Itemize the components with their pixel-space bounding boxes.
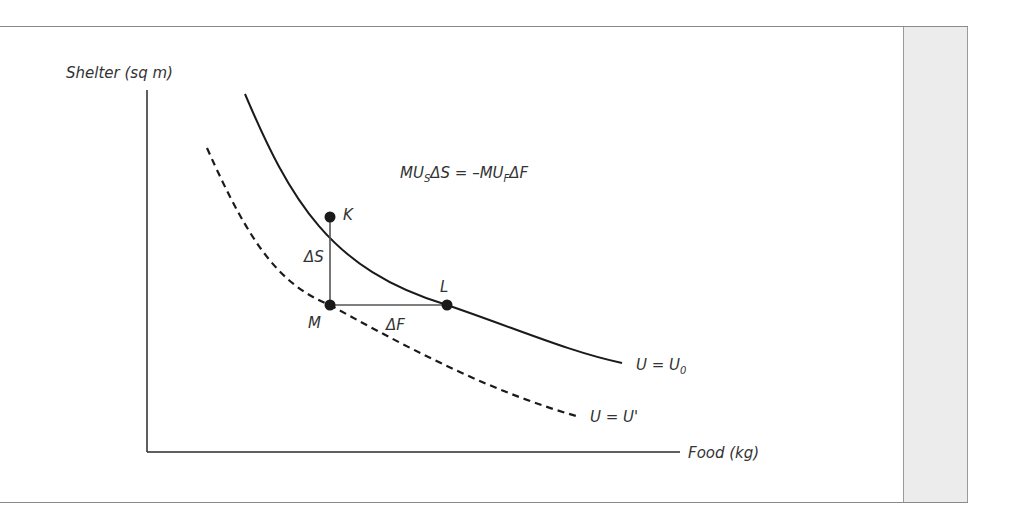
delta-s-label: ΔS [303,248,324,266]
delta-f-label: ΔF [385,316,405,334]
point-l-label: L [440,278,448,296]
x-axis-label: Food (kg) [688,444,759,462]
curve-label-u-prime: U = U' [590,408,638,426]
point-m [325,300,336,311]
curve-label-u0: U = U0 [636,356,686,376]
indifference-curve-u-prime [207,148,580,417]
indifference-curve-u0 [245,94,622,363]
y-axis-label: Shelter (sq m) [66,64,173,82]
point-k [325,212,336,223]
point-m-label: M [308,314,321,332]
point-k-label: K [343,206,354,224]
indifference-curve-diagram: Shelter (sq m) Food (kg) K L M ΔS ΔF MUS… [0,0,1011,525]
equation: MUSΔS = –MUFΔF [400,164,529,184]
point-l [442,300,453,311]
